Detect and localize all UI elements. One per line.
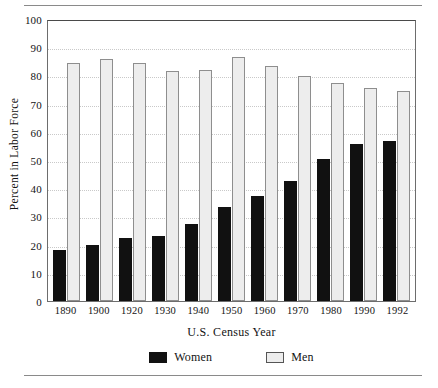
y-axis-title: Percent in Labor Force bbox=[8, 64, 20, 244]
y-axis-tick-label: 10 bbox=[31, 268, 42, 279]
y-axis-tick-label: 60 bbox=[31, 127, 42, 138]
legend-item-women[interactable]: Women bbox=[149, 350, 212, 365]
x-axis-tick-label: 1980 bbox=[315, 304, 348, 322]
y-axis-tick-label: 40 bbox=[31, 184, 42, 195]
bar-women-1960[interactable] bbox=[251, 196, 264, 301]
y-axis-tick-label: 50 bbox=[31, 156, 42, 167]
bar-group bbox=[182, 21, 215, 301]
bar-group bbox=[314, 21, 347, 301]
legend-swatch-women bbox=[149, 352, 167, 363]
bar-group bbox=[281, 21, 314, 301]
bar-group bbox=[215, 21, 248, 301]
bar-men-1950[interactable] bbox=[232, 57, 245, 301]
x-axis-title: U.S. Census Year bbox=[47, 325, 416, 340]
x-axis-tick-label: 1960 bbox=[248, 304, 281, 322]
figure-top-rule bbox=[24, 5, 422, 6]
bar-men-1890[interactable] bbox=[67, 63, 80, 301]
legend-label: Men bbox=[291, 350, 314, 365]
bar-women-1920[interactable] bbox=[119, 238, 132, 301]
bar-women-1940[interactable] bbox=[185, 224, 198, 301]
bar-women-1890[interactable] bbox=[53, 250, 66, 301]
x-axis-tick-label: 1940 bbox=[182, 304, 215, 322]
bar-group bbox=[116, 21, 149, 301]
bar-men-1970[interactable] bbox=[298, 76, 311, 301]
x-axis-tick-label: 1950 bbox=[215, 304, 248, 322]
x-axis-tick-label: 1992 bbox=[381, 304, 414, 322]
bar-men-1930[interactable] bbox=[166, 71, 179, 301]
legend-label: Women bbox=[174, 350, 212, 365]
x-axis-tick-label: 1890 bbox=[49, 304, 82, 322]
bar-women-1992[interactable] bbox=[383, 141, 396, 301]
bar-group bbox=[347, 21, 380, 301]
bar-women-1970[interactable] bbox=[284, 181, 297, 301]
x-axis-tick-label: 1990 bbox=[348, 304, 381, 322]
legend-item-men[interactable]: Men bbox=[266, 350, 314, 365]
x-axis-tick-labels: 1890190019201930194019501960197019801990… bbox=[47, 304, 416, 322]
bar-men-1992[interactable] bbox=[397, 91, 410, 301]
bar-group bbox=[83, 21, 116, 301]
y-axis-tick-label: 20 bbox=[31, 240, 42, 251]
figure-bottom-rule bbox=[24, 375, 422, 376]
y-axis: Percent in Labor Force 01020304050607080… bbox=[0, 0, 47, 322]
bar-men-1980[interactable] bbox=[331, 83, 344, 301]
x-axis-tick-label: 1920 bbox=[115, 304, 148, 322]
figure: Percent in Labor Force 01020304050607080… bbox=[0, 0, 438, 388]
bar-women-1950[interactable] bbox=[218, 207, 231, 301]
y-axis-tick-label: 100 bbox=[25, 15, 42, 26]
bar-women-1930[interactable] bbox=[152, 236, 165, 301]
y-axis-tick-label: 30 bbox=[31, 212, 42, 223]
y-axis-tick-label: 80 bbox=[31, 71, 42, 82]
legend: WomenMen bbox=[47, 350, 416, 365]
bar-series-container bbox=[48, 21, 415, 301]
x-axis-tick-label: 1970 bbox=[281, 304, 314, 322]
y-axis-tick-label: 70 bbox=[31, 99, 42, 110]
bar-group bbox=[50, 21, 83, 301]
legend-swatch-men bbox=[266, 352, 284, 363]
bar-men-1920[interactable] bbox=[133, 63, 146, 301]
bar-women-1900[interactable] bbox=[86, 245, 99, 301]
bar-women-1990[interactable] bbox=[350, 144, 363, 301]
bar-group bbox=[380, 21, 413, 301]
bar-men-1990[interactable] bbox=[364, 88, 377, 301]
bar-women-1980[interactable] bbox=[317, 159, 330, 301]
y-axis-tick-label: 0 bbox=[36, 297, 42, 308]
y-axis-tick-label: 90 bbox=[31, 43, 42, 54]
bar-men-1900[interactable] bbox=[100, 59, 113, 301]
plot-area bbox=[47, 20, 416, 302]
bar-men-1940[interactable] bbox=[199, 70, 212, 301]
bar-group bbox=[248, 21, 281, 301]
x-axis-tick-label: 1930 bbox=[149, 304, 182, 322]
x-axis-tick-label: 1900 bbox=[82, 304, 115, 322]
bar-men-1960[interactable] bbox=[265, 66, 278, 301]
bar-group bbox=[149, 21, 182, 301]
